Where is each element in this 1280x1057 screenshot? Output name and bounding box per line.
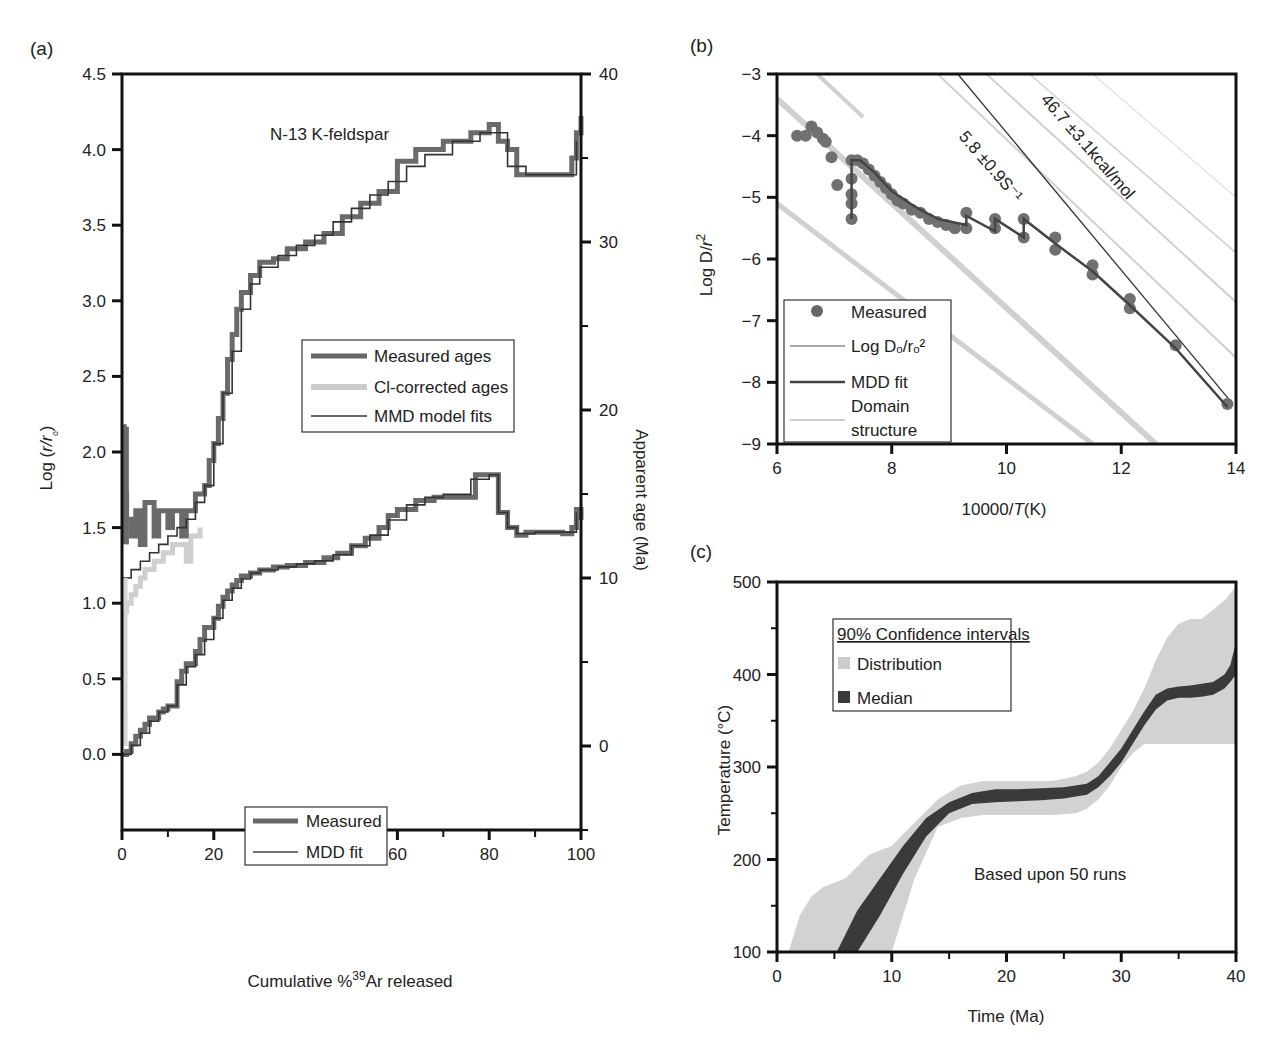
axis-tick: 10 — [997, 444, 1016, 478]
panel-c-legend: 90% Confidence intervals Distribution Me… — [833, 619, 1030, 711]
axis-tick: 30 — [1112, 952, 1131, 986]
svg-text:100: 100 — [567, 845, 595, 864]
svg-text:−9: −9 — [742, 435, 761, 454]
panel-c-label: (c) — [690, 541, 712, 562]
svg-text:60: 60 — [388, 845, 407, 864]
series-measured — [122, 475, 581, 755]
svg-text:1.0: 1.0 — [82, 594, 106, 613]
svg-text:20: 20 — [997, 967, 1016, 986]
legend-c-distribution: Distribution — [857, 655, 942, 674]
axis-tick: 1.5 — [82, 519, 122, 538]
panel-c-x-axis: 010203040 — [772, 952, 1245, 986]
svg-text:300: 300 — [733, 758, 761, 777]
panel-c: (c) 100200300400500 010203040 Time (Ma) … — [690, 541, 1245, 1026]
svg-text:3.0: 3.0 — [82, 292, 106, 311]
axis-tick: 2.0 — [82, 443, 122, 462]
axis-tick: 30 — [581, 233, 618, 252]
panel-a-right-axis: 010203040 — [581, 65, 618, 830]
panel-a-title: N-13 K-feldspar — [270, 125, 389, 144]
axis-tick: 12 — [1112, 444, 1131, 478]
svg-text:0.5: 0.5 — [82, 670, 106, 689]
legend-swatch-median — [838, 691, 850, 703]
axis-tick: 0 — [581, 737, 608, 756]
legend-measured: Measured — [306, 812, 382, 831]
svg-text:10: 10 — [997, 459, 1016, 478]
annotation-frequency-factor: 5.8 ±0.9S⁻¹ — [955, 127, 1027, 206]
svg-text:0: 0 — [117, 845, 126, 864]
axis-tick: 14 — [1227, 444, 1246, 478]
svg-text:10: 10 — [599, 569, 618, 588]
measured-point — [831, 179, 843, 191]
domain-structure-line — [986, 74, 1236, 302]
axis-tick: 4.5 — [82, 65, 122, 84]
axis-tick: 10 — [581, 569, 618, 588]
svg-text:80: 80 — [480, 845, 499, 864]
measured-point — [826, 151, 838, 163]
svg-text:400: 400 — [733, 666, 761, 685]
panel-c-y-axis-label: Temperature (°C) — [715, 705, 734, 836]
figure-canvas: (a) 0.00.51.01.52.02.53.03.54.04.5 01020… — [0, 0, 1280, 1057]
axis-tick: 20 — [204, 830, 223, 864]
svg-text:14: 14 — [1227, 459, 1246, 478]
svg-text:−8: −8 — [742, 373, 761, 392]
axis-tick: −3 — [742, 65, 777, 84]
panel-a: (a) 0.00.51.01.52.02.53.03.54.04.5 01020… — [30, 38, 651, 991]
svg-text:3.5: 3.5 — [82, 216, 106, 235]
panel-b: (b) −9−8−7−6−5−4−3 68101214 10000/T(K) L… — [690, 35, 1245, 519]
axis-tick: 60 — [388, 830, 407, 864]
panel-a-left-axis-label: Log (r/rₒ) — [37, 426, 60, 491]
axis-tick: 80 — [480, 830, 499, 864]
panel-a-x-axis-label: Cumulative %39Ar released — [247, 969, 452, 991]
panel-a-legend-ages: Measured ages Cl-corrected ages MMD mode… — [302, 340, 514, 432]
panel-a-left-axis: 0.00.51.01.52.02.53.03.54.04.5 — [82, 65, 122, 764]
legend-b-measured: Measured — [851, 303, 927, 322]
axis-tick: 20 — [581, 401, 618, 420]
axis-tick: 6 — [772, 444, 781, 478]
early-spike-cl — [123, 578, 127, 746]
panel-c-y-axis: 100200300400500 — [733, 573, 777, 962]
svg-text:−5: −5 — [742, 188, 761, 207]
axis-tick: 3.0 — [82, 292, 122, 311]
log-do-ro2-line — [958, 74, 1231, 401]
legend-b-domain-line1: Domain — [851, 397, 910, 416]
axis-tick: 2.5 — [82, 367, 122, 386]
axis-tick: 40 — [1227, 952, 1246, 986]
svg-text:30: 30 — [1112, 967, 1131, 986]
panel-b-y-axis: −9−8−7−6−5−4−3 — [742, 65, 777, 454]
panel-b-x-axis: 68101214 — [772, 444, 1245, 478]
panel-b-y-axis-label: Log D/r2 — [694, 233, 716, 296]
panel-b-label: (b) — [690, 35, 713, 56]
panel-a-plot-area — [122, 116, 581, 754]
svg-text:200: 200 — [733, 851, 761, 870]
panel-a-legend-logr: Measured MDD fit — [245, 807, 387, 865]
axis-tick: 0 — [772, 952, 781, 986]
svg-text:4.5: 4.5 — [82, 65, 106, 84]
svg-text:1.5: 1.5 — [82, 519, 106, 538]
svg-text:40: 40 — [599, 65, 618, 84]
axis-tick: 0 — [117, 830, 126, 864]
svg-text:12: 12 — [1112, 459, 1131, 478]
svg-text:20: 20 — [204, 845, 223, 864]
svg-text:0.0: 0.0 — [82, 745, 106, 764]
panel-b-x-axis-label: 10000/T(K) — [961, 500, 1046, 519]
legend-b-mdd-fit: MDD fit — [851, 373, 908, 392]
legend-measured-ages: Measured ages — [374, 347, 491, 366]
axis-tick: 8 — [887, 444, 896, 478]
panel-b-legend: Measured Log Dₒ/rₒ² MDD fit Domain struc… — [784, 300, 951, 442]
axis-tick: 400 — [733, 666, 777, 685]
legend-b-log-do-ro2: Log Dₒ/rₒ² — [851, 337, 926, 356]
legend-mdd-fit: MDD fit — [306, 843, 363, 862]
axis-tick: −7 — [742, 312, 777, 331]
svg-text:100: 100 — [733, 943, 761, 962]
panel-a-right-axis-label: Apparent age (Ma) — [632, 429, 651, 571]
svg-text:10: 10 — [882, 967, 901, 986]
svg-text:30: 30 — [599, 233, 618, 252]
axis-tick: 0.0 — [82, 745, 122, 764]
series-measured-ages — [122, 116, 581, 544]
svg-text:−4: −4 — [742, 127, 761, 146]
axis-tick: 40 — [581, 65, 618, 84]
svg-text:0: 0 — [772, 967, 781, 986]
panel-a-frame — [122, 74, 581, 830]
svg-text:4.0: 4.0 — [82, 141, 106, 160]
axis-tick: 100 — [733, 943, 777, 962]
